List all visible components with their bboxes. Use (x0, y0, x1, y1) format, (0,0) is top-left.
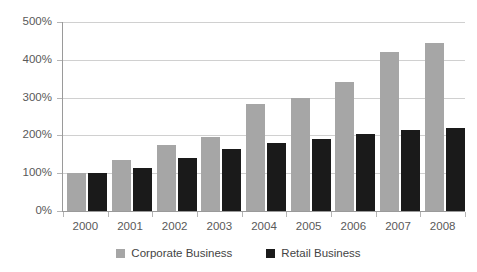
x-axis-tick (331, 212, 332, 217)
x-axis-tick (63, 212, 64, 217)
bar-group (291, 22, 331, 211)
chart-legend: Corporate BusinessRetail Business (0, 248, 477, 260)
legend-item-label: Corporate Business (131, 248, 232, 260)
bar-retail (401, 130, 420, 211)
x-axis-tick (242, 212, 243, 217)
y-axis-tick-label: 100% (4, 167, 52, 179)
bar-corporate (425, 43, 444, 211)
x-axis-tick-label: 2005 (287, 221, 331, 233)
bar-group (335, 22, 375, 211)
bar-group (425, 22, 465, 211)
bar-corporate (291, 98, 310, 211)
bar-retail (356, 134, 375, 211)
y-axis-labels: 0%100%200%300%400%500% (0, 0, 52, 272)
y-axis-tick-label: 0% (4, 205, 52, 217)
y-axis-tick-label: 500% (4, 16, 52, 28)
bar-corporate (67, 173, 86, 211)
bar-corporate (112, 160, 131, 211)
legend-swatch-icon (266, 249, 275, 258)
bar-corporate (380, 52, 399, 211)
x-axis-tick-label: 2006 (331, 221, 375, 233)
legend-item-retail[interactable]: Retail Business (266, 248, 360, 260)
bar-corporate (335, 82, 354, 211)
bar-group (67, 22, 107, 211)
x-axis-tick-label: 2004 (242, 221, 286, 233)
y-axis-tick (57, 98, 62, 99)
y-axis-tick (57, 22, 62, 23)
plot-area (63, 22, 465, 211)
y-axis-tick (57, 135, 62, 136)
x-axis-tick-label: 2008 (421, 221, 465, 233)
bar-corporate (246, 104, 265, 211)
bar-retail (133, 168, 152, 211)
bar-retail (178, 158, 197, 211)
y-axis-tick (57, 60, 62, 61)
x-axis-tick (197, 212, 198, 217)
y-axis-tick (57, 211, 62, 212)
x-axis-tick (465, 212, 466, 217)
bar-retail (267, 143, 286, 211)
x-axis-tick-label: 2000 (63, 221, 107, 233)
x-axis-tick-label: 2003 (197, 221, 241, 233)
bar-corporate (201, 137, 220, 211)
bar-group (157, 22, 197, 211)
y-axis-tick-label: 200% (4, 129, 52, 141)
x-axis-tick (376, 212, 377, 217)
bar-chart: 0%100%200%300%400%500% Corporate Busines… (0, 0, 477, 272)
bar-retail (312, 139, 331, 211)
legend-swatch-icon (116, 249, 125, 258)
x-axis-tick (108, 212, 109, 217)
x-axis-tick-label: 2007 (376, 221, 420, 233)
y-axis-tick (57, 173, 62, 174)
bar-group (380, 22, 420, 211)
x-axis-tick (152, 212, 153, 217)
y-axis-tick-label: 400% (4, 54, 52, 66)
x-axis-tick-label: 2002 (153, 221, 197, 233)
bar-group (112, 22, 152, 211)
x-axis-line (62, 211, 465, 212)
legend-item-label: Retail Business (281, 248, 360, 260)
bar-retail (222, 149, 241, 211)
bar-group (246, 22, 286, 211)
y-axis-tick-label: 300% (4, 92, 52, 104)
x-axis-tick (286, 212, 287, 217)
bar-corporate (157, 145, 176, 211)
x-axis-tick-label: 2001 (108, 221, 152, 233)
bar-retail (446, 128, 465, 211)
x-axis-tick (420, 212, 421, 217)
bar-group (201, 22, 241, 211)
legend-item-corporate[interactable]: Corporate Business (116, 248, 232, 260)
bar-retail (88, 173, 107, 211)
